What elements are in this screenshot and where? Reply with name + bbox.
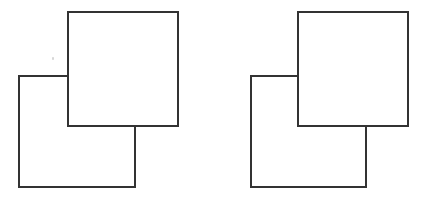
scan-speck (52, 57, 54, 60)
overlapping-squares-illustration (0, 0, 431, 201)
drawing-canvas (0, 0, 431, 201)
figures-layer (0, 0, 431, 201)
left-upper-square (68, 12, 178, 126)
figure-right (251, 12, 408, 187)
figure-left (19, 12, 178, 187)
right-upper-square (298, 12, 408, 126)
